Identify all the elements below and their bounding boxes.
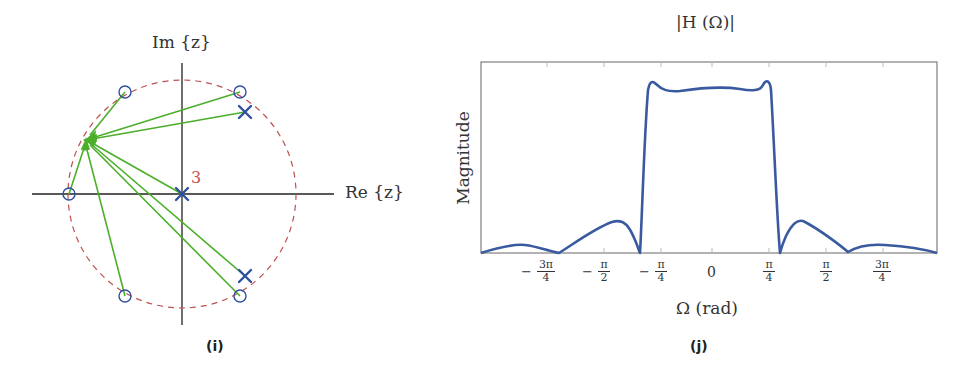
tick-label: π4 bbox=[655, 259, 667, 284]
magnitude-response-panel: |H (Ω)| Magnitude Ω (rad) − 3π4 − π2 − π… bbox=[440, 0, 978, 381]
tick-label: π2 bbox=[598, 259, 610, 284]
caption-j: (j) bbox=[690, 338, 708, 354]
re-axis-label: Re {z} bbox=[345, 182, 404, 202]
tick-label-zero: 0 bbox=[707, 264, 716, 280]
pole-multiplicity-label: 3 bbox=[191, 168, 201, 187]
tick-label: π2 bbox=[820, 259, 832, 284]
magnitude-curve bbox=[481, 81, 937, 253]
im-axis-label: Im {z} bbox=[152, 32, 211, 52]
x-axis-label: Ω (rad) bbox=[676, 298, 738, 318]
pole-marker bbox=[239, 270, 251, 282]
pole-zero-plot bbox=[0, 0, 360, 381]
plot-frame bbox=[481, 62, 937, 253]
tick-sign: − bbox=[521, 264, 532, 279]
tick-label: π4 bbox=[763, 259, 775, 284]
caption-i: (i) bbox=[206, 338, 224, 354]
tick-label: 3π4 bbox=[537, 259, 555, 284]
chart-title: |H (Ω)| bbox=[676, 12, 735, 32]
tick-label: 3π4 bbox=[873, 259, 891, 284]
magnitude-chart bbox=[440, 0, 978, 381]
x-ticks bbox=[547, 62, 883, 253]
tick-sign: − bbox=[639, 264, 650, 279]
pole-zero-plot-panel: Im {z} Re {z} 3 (i) bbox=[0, 0, 360, 381]
y-axis-label: Magnitude bbox=[453, 111, 473, 205]
tick-sign: − bbox=[582, 264, 593, 279]
